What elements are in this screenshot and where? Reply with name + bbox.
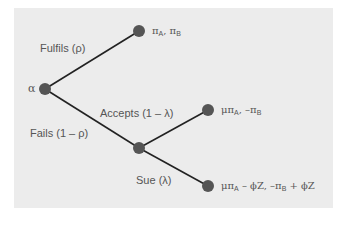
edge-fulfils: [45, 31, 139, 89]
node-fulfil: [133, 25, 145, 37]
node-accept: [202, 104, 214, 116]
payoff-fulfil: πA, πB: [152, 25, 181, 40]
node-fail: [133, 142, 145, 154]
node-sue: [202, 180, 214, 192]
payoff-sue: μπA – ϕZ, –πB + ϕZ: [221, 180, 315, 195]
edge-label-fails: Fails (1 – ρ): [30, 127, 88, 139]
edge-label-accepts: Accepts (1 – λ): [100, 107, 173, 119]
payoff-accept: μπA, –πB: [221, 104, 261, 119]
edge-label-sue: Sue (λ): [136, 174, 171, 186]
root-label: α: [28, 82, 35, 95]
node-root: [39, 83, 51, 95]
edge-label-fulfils: Fulfils (ρ): [40, 42, 85, 54]
